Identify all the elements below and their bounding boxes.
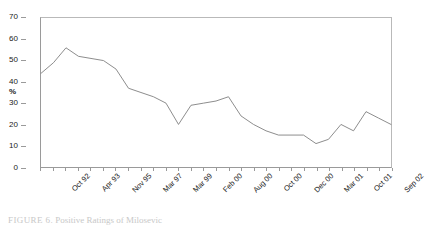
x-tick-mark bbox=[178, 168, 179, 171]
x-tick-label: Apr 93 bbox=[101, 172, 122, 193]
x-tick-label: Oct 01 bbox=[373, 172, 394, 193]
y-tick-mark bbox=[21, 17, 26, 18]
x-tick-label: Oct 00 bbox=[282, 172, 303, 193]
y-tick-mark bbox=[21, 125, 26, 126]
x-tick-label: Feb 00 bbox=[222, 172, 244, 194]
figure-caption: FIGURE 6. Positive Ratings of Milosevic bbox=[8, 215, 398, 227]
x-tick-mark bbox=[229, 168, 230, 171]
line-series bbox=[41, 18, 391, 167]
x-tick-label: Nov 95 bbox=[131, 172, 153, 194]
x-tick-label: Mar 01 bbox=[343, 172, 365, 194]
x-tick-mark bbox=[392, 168, 393, 171]
y-tick-label: 20 bbox=[9, 121, 18, 129]
x-tick-label: Mar 97 bbox=[161, 172, 183, 194]
x-tick-mark bbox=[65, 168, 66, 171]
x-axis-labels: Oct 92Apr 93Nov 95Mar 97Mar 99Feb 00Aug … bbox=[40, 172, 400, 212]
x-tick-mark bbox=[78, 168, 79, 171]
x-tick-label: Dec 00 bbox=[313, 172, 335, 194]
series-polyline bbox=[41, 48, 391, 144]
x-tick-mark bbox=[166, 168, 167, 171]
y-tick-label: 30 bbox=[9, 99, 18, 107]
y-tick-label: 50 bbox=[9, 56, 18, 64]
x-tick-mark bbox=[191, 168, 192, 171]
x-tick-mark bbox=[379, 168, 380, 171]
x-tick-mark bbox=[103, 168, 104, 171]
y-tick-label: 40 bbox=[9, 78, 18, 86]
x-tick-mark bbox=[354, 168, 355, 171]
x-tick-mark bbox=[90, 168, 91, 171]
x-tick-mark bbox=[342, 168, 343, 171]
x-tick-mark bbox=[317, 168, 318, 171]
x-tick-mark bbox=[367, 168, 368, 171]
y-tick-label: 60 bbox=[9, 35, 18, 43]
plot-area bbox=[40, 17, 392, 168]
y-axis: 706050403020100 bbox=[0, 0, 40, 227]
x-tick-mark bbox=[141, 168, 142, 171]
y-tick-mark bbox=[21, 168, 26, 169]
x-tick-mark bbox=[53, 168, 54, 171]
y-tick-label: 0 bbox=[14, 164, 18, 172]
y-tick-label: 10 bbox=[9, 142, 18, 150]
x-tick-label: Mar 99 bbox=[192, 172, 214, 194]
x-tick-mark bbox=[291, 168, 292, 171]
x-tick-mark bbox=[241, 168, 242, 171]
x-tick-mark bbox=[304, 168, 305, 171]
y-tick-mark bbox=[21, 60, 26, 61]
y-tick-label: 70 bbox=[9, 13, 18, 21]
x-tick-mark bbox=[279, 168, 280, 171]
x-tick-label: Aug 00 bbox=[252, 172, 274, 194]
x-tick-mark bbox=[216, 168, 217, 171]
x-tick-label: Sep 02 bbox=[403, 172, 425, 194]
x-tick-mark bbox=[153, 168, 154, 171]
y-tick-mark bbox=[21, 103, 26, 104]
x-tick-mark bbox=[40, 168, 41, 171]
y-tick-mark bbox=[21, 82, 26, 83]
caption-text: Positive Ratings of Milosevic bbox=[55, 215, 162, 225]
x-tick-mark bbox=[128, 168, 129, 171]
x-tick-mark bbox=[254, 168, 255, 171]
x-tick-mark bbox=[115, 168, 116, 171]
y-tick-mark bbox=[21, 39, 26, 40]
x-tick-mark bbox=[203, 168, 204, 171]
y-tick-mark bbox=[21, 146, 26, 147]
caption-label: FIGURE 6. bbox=[8, 215, 53, 225]
x-tick-label: Oct 92 bbox=[70, 172, 91, 193]
